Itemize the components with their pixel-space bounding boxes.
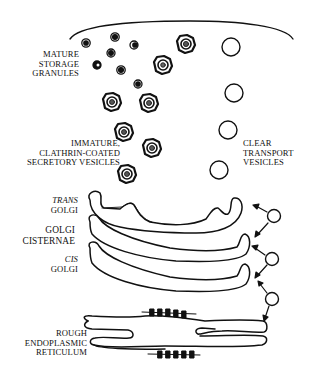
label-cis-golgi: CIS GOLGI	[51, 255, 78, 274]
label-immature-vesicles: IMMATURE, CLATHRIN-COATED SECRETORY VESI…	[27, 139, 120, 168]
golgi-cisternae-middle	[89, 215, 250, 262]
label-mature-storage-granules: MATURE STORAGE GRANULES	[32, 50, 79, 79]
rough-er-upper-membrane	[84, 316, 267, 334]
label-golgi-cisternae: GOLGI CISTERNAE	[23, 225, 75, 246]
label-clear-transport-vesicles: CLEAR TRANSPORT VESICLES	[243, 139, 294, 168]
mature-storage-granules	[82, 33, 142, 88]
label-rough-er: ROUGH ENDOPLASMIC RETICULUM	[25, 329, 87, 358]
clear-transport-vesicles	[210, 38, 243, 179]
trans-golgi-cisterna	[89, 191, 242, 233]
secretory-pathway-diagram: MATURE STORAGE GRANULES IMMATURE, CLATHR…	[0, 0, 311, 381]
ribosomes-lower	[148, 351, 200, 358]
label-trans-golgi: TRANS GOLGI	[51, 196, 78, 215]
rough-er-left-lobe	[85, 321, 267, 347]
